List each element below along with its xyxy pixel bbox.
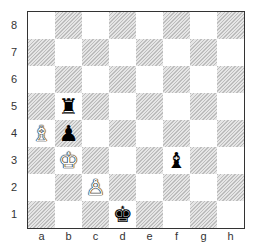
file-label: d (109, 230, 136, 242)
square-a7[interactable] (28, 39, 55, 66)
white-king-icon[interactable]: ♔ (59, 150, 79, 172)
square-a1[interactable] (28, 201, 55, 228)
square-e2[interactable] (136, 174, 163, 201)
square-b4[interactable]: ♟ (55, 120, 82, 147)
square-d5[interactable] (109, 93, 136, 120)
square-e7[interactable] (136, 39, 163, 66)
rank-label: 7 (8, 46, 20, 58)
square-e3[interactable] (136, 147, 163, 174)
black-rook-icon[interactable]: ♜ (59, 96, 79, 118)
square-g6[interactable] (190, 66, 217, 93)
square-h5[interactable] (217, 93, 244, 120)
square-e8[interactable] (136, 12, 163, 39)
rank-label: 3 (8, 154, 20, 166)
file-label: c (82, 230, 109, 242)
square-g1[interactable] (190, 201, 217, 228)
square-b5[interactable]: ♜ (55, 93, 82, 120)
square-a4[interactable]: ♗ (28, 120, 55, 147)
square-b3[interactable]: ♔ (55, 147, 82, 174)
file-label: g (190, 230, 217, 242)
square-d4[interactable] (109, 120, 136, 147)
square-f4[interactable] (163, 120, 190, 147)
square-h6[interactable] (217, 66, 244, 93)
square-g8[interactable] (190, 12, 217, 39)
square-h2[interactable] (217, 174, 244, 201)
square-d3[interactable] (109, 147, 136, 174)
file-label: h (217, 230, 244, 242)
black-bishop-icon[interactable]: ♝ (167, 150, 187, 172)
square-a5[interactable] (28, 93, 55, 120)
file-label: b (55, 230, 82, 242)
square-f6[interactable] (163, 66, 190, 93)
square-f2[interactable] (163, 174, 190, 201)
square-g3[interactable] (190, 147, 217, 174)
square-f7[interactable] (163, 39, 190, 66)
white-bishop-icon[interactable]: ♗ (32, 123, 52, 145)
square-c1[interactable] (82, 201, 109, 228)
file-label: f (163, 230, 190, 242)
square-a8[interactable] (28, 12, 55, 39)
white-pawn-icon[interactable]: ♙ (86, 177, 106, 199)
square-a3[interactable] (28, 147, 55, 174)
rank-label: 5 (8, 100, 20, 112)
square-g5[interactable] (190, 93, 217, 120)
square-d2[interactable] (109, 174, 136, 201)
square-f5[interactable] (163, 93, 190, 120)
square-e1[interactable] (136, 201, 163, 228)
square-f8[interactable] (163, 12, 190, 39)
square-h1[interactable] (217, 201, 244, 228)
square-g7[interactable] (190, 39, 217, 66)
square-g4[interactable] (190, 120, 217, 147)
file-label: e (136, 230, 163, 242)
square-d7[interactable] (109, 39, 136, 66)
square-b2[interactable] (55, 174, 82, 201)
square-e5[interactable] (136, 93, 163, 120)
square-h3[interactable] (217, 147, 244, 174)
chess-board: ♜♗♟♔♝♙♚ (27, 11, 245, 229)
square-h4[interactable] (217, 120, 244, 147)
square-c8[interactable] (82, 12, 109, 39)
square-h8[interactable] (217, 12, 244, 39)
square-f3[interactable]: ♝ (163, 147, 190, 174)
square-f1[interactable] (163, 201, 190, 228)
square-b1[interactable] (55, 201, 82, 228)
square-a6[interactable] (28, 66, 55, 93)
rank-label: 1 (8, 208, 20, 220)
rank-label: 6 (8, 73, 20, 85)
square-b7[interactable] (55, 39, 82, 66)
square-c5[interactable] (82, 93, 109, 120)
rank-label: 4 (8, 127, 20, 139)
square-b8[interactable] (55, 12, 82, 39)
square-e6[interactable] (136, 66, 163, 93)
square-c2[interactable]: ♙ (82, 174, 109, 201)
square-e4[interactable] (136, 120, 163, 147)
rank-label: 8 (8, 19, 20, 31)
square-d8[interactable] (109, 12, 136, 39)
square-h7[interactable] (217, 39, 244, 66)
square-c7[interactable] (82, 39, 109, 66)
square-c4[interactable] (82, 120, 109, 147)
file-label: a (28, 230, 55, 242)
square-d6[interactable] (109, 66, 136, 93)
square-g2[interactable] (190, 174, 217, 201)
square-d1[interactable]: ♚ (109, 201, 136, 228)
square-c6[interactable] (82, 66, 109, 93)
black-pawn-icon[interactable]: ♟ (59, 123, 79, 145)
black-king-icon[interactable]: ♚ (113, 204, 133, 226)
square-a2[interactable] (28, 174, 55, 201)
rank-label: 2 (8, 181, 20, 193)
square-b6[interactable] (55, 66, 82, 93)
square-c3[interactable] (82, 147, 109, 174)
